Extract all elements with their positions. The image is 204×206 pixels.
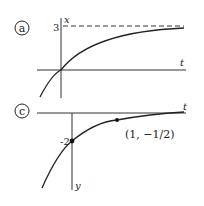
axis-label-h: t [180, 57, 185, 68]
panel-label: c [19, 105, 25, 118]
point-marked [115, 118, 119, 122]
axis-label-h: t [183, 101, 188, 112]
curve [40, 28, 184, 97]
axis-label-v: x [64, 14, 70, 25]
axis-label-v: y [74, 180, 81, 191]
curve [42, 112, 184, 188]
figure: a x 3 t c -2 (1, −1/2) y t [0, 0, 204, 206]
point-label: (1, −1/2) [125, 128, 175, 141]
panel-c: c -2 (1, −1/2) y t [15, 101, 188, 191]
tick-label: 3 [53, 22, 59, 33]
point-intercept [70, 139, 75, 144]
panel-a: a x 3 t [15, 14, 186, 98]
tick-label: -2 [60, 136, 70, 147]
panel-label: a [19, 22, 26, 35]
